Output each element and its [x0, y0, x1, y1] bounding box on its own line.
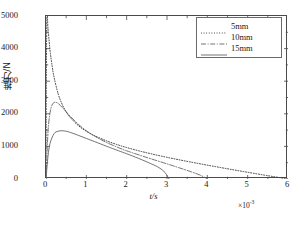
legend-label: 5mm [231, 22, 248, 31]
x-tick-label: 3 [156, 180, 176, 189]
legend: 5mm10mm15mm [196, 17, 282, 58]
x-tick-label: 2 [116, 180, 136, 189]
x-axis-exponent: ×10-3 [238, 199, 298, 210]
y-tick-label: 4000 [1, 43, 18, 52]
x-axis-exponent-base: ×10 [238, 201, 250, 210]
y-tick-label: 2000 [1, 108, 18, 117]
x-tick-label: 4 [196, 180, 216, 189]
y-tick-label: 3000 [1, 76, 18, 85]
legend-item-5mm: 5mm [200, 21, 278, 32]
x-axis-exponent-power: -3 [250, 199, 255, 205]
legend-item-15mm: 15mm [200, 43, 278, 54]
y-tick-label: 1000 [1, 141, 18, 150]
y-tick-label: 0 [14, 174, 18, 183]
legend-line-sample [200, 45, 228, 53]
x-tick-label: 1 [75, 180, 95, 189]
x-tick-label: 6 [277, 180, 297, 189]
legend-item-10mm: 10mm [200, 32, 278, 43]
curve-15mm [46, 131, 169, 179]
legend-label: 10mm [231, 33, 253, 42]
x-tick-label: 0 [35, 180, 55, 189]
x-tick-label: 5 [237, 180, 257, 189]
legend-line-sample [200, 23, 228, 31]
legend-label: 15mm [231, 44, 253, 53]
curve-10mm [46, 102, 207, 179]
y-tick-label: 5000 [1, 11, 18, 20]
legend-line-sample [200, 34, 228, 42]
figure: 推力/N 010002000300040005000 0123456 t/s ×… [0, 0, 307, 228]
